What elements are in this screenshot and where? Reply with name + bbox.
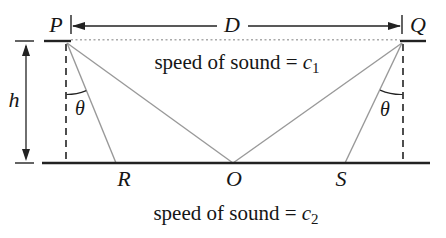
- layer2-speed-label: speed of sound = c2: [153, 201, 318, 227]
- refraction-diagram: D P Q h: [0, 0, 446, 238]
- layer1-speed-prefix: speed of sound =: [154, 50, 302, 74]
- label-o: O: [226, 166, 242, 191]
- label-p: P: [48, 12, 62, 37]
- label-d: D: [223, 12, 240, 37]
- layer2-speed-prefix: speed of sound =: [153, 201, 301, 225]
- layer1-speed-label: speed of sound = c1: [154, 50, 319, 76]
- layer2-speed-subscript: 2: [311, 211, 319, 227]
- label-q: Q: [410, 12, 426, 37]
- label-h: h: [9, 87, 20, 112]
- diagram-canvas: D P Q h: [0, 0, 446, 238]
- label-theta-left: θ: [75, 97, 85, 119]
- label-s: S: [336, 166, 347, 191]
- layer1-speed-subscript: 1: [312, 60, 320, 76]
- label-r: R: [116, 166, 131, 191]
- label-theta-right: θ: [380, 98, 390, 120]
